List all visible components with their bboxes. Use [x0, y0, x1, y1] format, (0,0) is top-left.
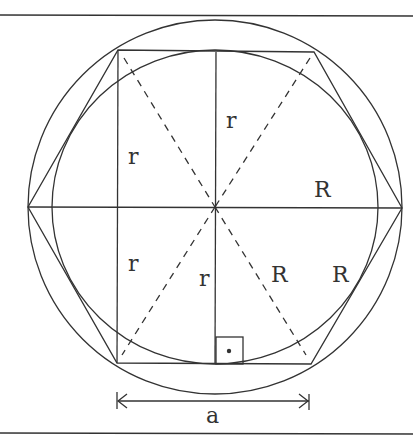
label-R-right-upper: R [314, 179, 331, 201]
dashed-radius-bottom-right [215, 207, 306, 355]
right-angle-dot [227, 349, 231, 353]
label-R-right-lower: R [332, 264, 349, 286]
label-a-side: a [206, 405, 219, 427]
hexagon-diagram [0, 0, 413, 440]
label-r-left-lower: r [128, 253, 139, 275]
label-r-left-upper: r [128, 146, 139, 168]
label-R-center-right: R [271, 264, 288, 286]
left-vertical-line [117, 50, 118, 363]
label-r-center-lower: r [199, 268, 210, 290]
bottom-border [0, 433, 413, 434]
dashed-radius-top-left [124, 58, 215, 207]
top-border [0, 15, 413, 16]
label-r-top: r [226, 110, 237, 132]
